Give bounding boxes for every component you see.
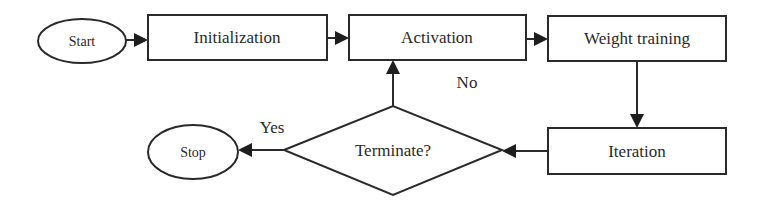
arrowhead-up-icon	[386, 60, 400, 74]
start-label: Start	[69, 34, 96, 49]
stop-label: Stop	[180, 145, 206, 160]
arrowhead-right-icon	[134, 33, 148, 47]
edge-terminate-to-activation-no	[386, 60, 400, 106]
activation-node: Activation	[349, 15, 526, 60]
iteration-label: Iteration	[608, 142, 666, 161]
terminate-label: Terminate?	[355, 141, 431, 160]
stop-node: Stop	[148, 125, 238, 179]
initialization-label: Initialization	[194, 28, 281, 47]
flowchart: Start Initialization Activation Weight t…	[0, 0, 766, 201]
iteration-node: Iteration	[548, 128, 726, 174]
edge-terminate-to-stop-yes	[238, 143, 284, 157]
arrowhead-left-icon	[238, 143, 252, 157]
start-node: Start	[38, 19, 126, 63]
arrowhead-left-icon	[502, 144, 516, 158]
weight-training-node: Weight training	[548, 16, 726, 61]
terminate-decision-node: Terminate?	[284, 106, 502, 195]
arrowhead-right-icon	[534, 32, 548, 46]
weight-training-label: Weight training	[584, 29, 690, 48]
edge-weight-training-to-iteration	[630, 61, 644, 128]
yes-edge-label: Yes	[260, 118, 285, 137]
edge-start-to-initialization	[126, 33, 148, 47]
arrowhead-right-icon	[335, 31, 349, 45]
initialization-node: Initialization	[148, 15, 327, 60]
edge-initialization-to-activation	[327, 31, 349, 45]
no-edge-label: No	[457, 73, 478, 92]
edge-iteration-to-terminate	[502, 144, 548, 158]
edge-activation-to-weight-training	[526, 32, 548, 46]
arrowhead-down-icon	[630, 114, 644, 128]
activation-label: Activation	[401, 28, 473, 47]
